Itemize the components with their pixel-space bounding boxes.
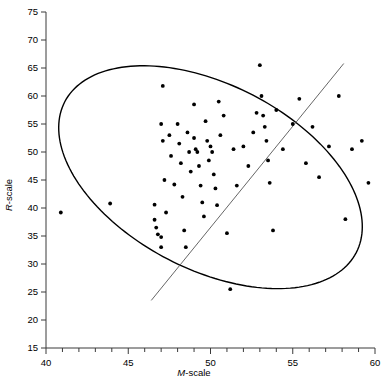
data-point bbox=[164, 211, 168, 215]
data-point bbox=[161, 84, 165, 88]
data-point bbox=[317, 175, 321, 179]
data-point bbox=[271, 229, 275, 233]
data-point bbox=[212, 173, 216, 177]
data-point bbox=[108, 202, 112, 206]
data-point bbox=[197, 164, 201, 168]
data-point bbox=[172, 183, 176, 187]
data-point bbox=[202, 215, 206, 219]
data-point bbox=[274, 108, 278, 112]
data-point bbox=[265, 139, 269, 143]
data-point bbox=[153, 218, 157, 222]
x-tick-label: 55 bbox=[287, 357, 298, 368]
data-point bbox=[255, 111, 259, 115]
data-point bbox=[159, 245, 163, 249]
y-tick-label: 15 bbox=[27, 342, 38, 353]
y-tick-label: 30 bbox=[27, 258, 38, 269]
data-point bbox=[199, 184, 203, 188]
data-point bbox=[242, 145, 246, 149]
y-tick-label: 55 bbox=[27, 118, 38, 129]
y-tick-label: 45 bbox=[27, 174, 38, 185]
y-tick-label: 40 bbox=[27, 202, 38, 213]
regression-line bbox=[151, 64, 343, 301]
data-point bbox=[192, 103, 196, 107]
data-point bbox=[181, 195, 185, 199]
data-point bbox=[176, 122, 180, 126]
data-point bbox=[232, 147, 236, 151]
x-axis-ticks: 4045505560 bbox=[41, 348, 381, 368]
regression-line-segment bbox=[151, 64, 343, 301]
data-point bbox=[189, 170, 193, 174]
data-point bbox=[167, 133, 171, 137]
data-point bbox=[311, 125, 315, 129]
data-point bbox=[260, 94, 264, 98]
y-tick-label: 35 bbox=[27, 230, 38, 241]
data-point bbox=[182, 229, 186, 233]
y-axis-title: R-scale bbox=[3, 179, 14, 211]
data-point bbox=[59, 211, 63, 215]
data-point bbox=[222, 114, 226, 118]
data-point bbox=[154, 226, 158, 230]
data-point bbox=[258, 63, 262, 67]
data-point bbox=[192, 136, 196, 140]
data-point bbox=[209, 145, 213, 149]
data-point bbox=[337, 94, 341, 98]
data-point bbox=[291, 122, 295, 126]
data-point bbox=[184, 245, 188, 249]
data-point bbox=[263, 125, 267, 129]
data-point bbox=[235, 184, 239, 188]
data-point bbox=[251, 131, 255, 135]
y-tick-label: 75 bbox=[27, 6, 38, 17]
data-point bbox=[153, 203, 157, 207]
data-point bbox=[187, 150, 191, 154]
data-point bbox=[186, 131, 190, 135]
data-point bbox=[215, 203, 219, 207]
y-tick-label: 60 bbox=[27, 90, 38, 101]
data-point bbox=[210, 150, 214, 154]
data-points bbox=[59, 63, 370, 291]
data-point bbox=[159, 235, 163, 239]
confidence-ellipse bbox=[59, 66, 363, 289]
data-point bbox=[246, 164, 250, 168]
data-point bbox=[343, 217, 347, 221]
data-point bbox=[177, 142, 181, 146]
data-point bbox=[350, 147, 354, 151]
x-tick-label: 60 bbox=[370, 357, 381, 368]
scatter-plot-figure: 15202530354045505560657075 4045505560 M-… bbox=[0, 0, 388, 383]
data-point bbox=[179, 161, 183, 165]
data-point bbox=[268, 181, 272, 185]
data-point bbox=[163, 178, 167, 182]
data-point bbox=[304, 161, 308, 165]
data-point bbox=[360, 139, 364, 143]
y-axis-ticks: 15202530354045505560657075 bbox=[27, 6, 46, 353]
data-point bbox=[327, 145, 331, 149]
data-point bbox=[161, 139, 165, 143]
data-point bbox=[204, 119, 208, 123]
data-point bbox=[367, 181, 371, 185]
data-point bbox=[159, 122, 163, 126]
data-point bbox=[217, 100, 221, 104]
x-tick-label: 40 bbox=[41, 357, 52, 368]
data-point bbox=[195, 150, 199, 154]
x-tick-label: 45 bbox=[123, 357, 134, 368]
data-point bbox=[225, 231, 229, 235]
data-point bbox=[218, 133, 222, 137]
ellipse-outline bbox=[59, 66, 363, 289]
x-axis-title: M-scale bbox=[177, 367, 210, 378]
plot-canvas: 15202530354045505560657075 4045505560 M-… bbox=[0, 0, 388, 383]
data-point bbox=[169, 154, 173, 158]
data-point bbox=[156, 232, 160, 236]
y-tick-label: 50 bbox=[27, 146, 38, 157]
data-point bbox=[228, 287, 232, 291]
data-point bbox=[297, 97, 301, 101]
data-point bbox=[261, 114, 265, 118]
y-tick-label: 65 bbox=[27, 62, 38, 73]
y-tick-label: 25 bbox=[27, 286, 38, 297]
data-point bbox=[214, 187, 218, 191]
y-tick-label: 20 bbox=[27, 314, 38, 325]
data-point bbox=[207, 159, 211, 163]
data-point bbox=[200, 201, 204, 205]
data-point bbox=[205, 139, 209, 143]
data-point bbox=[281, 147, 285, 151]
y-tick-label: 70 bbox=[27, 34, 38, 45]
data-point bbox=[266, 159, 270, 163]
